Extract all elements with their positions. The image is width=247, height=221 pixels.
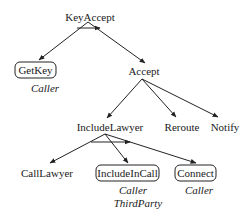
node-connect: Connect Caller	[175, 165, 216, 196]
role-label: Caller	[119, 184, 148, 196]
edge-accept-reroute	[142, 79, 176, 117]
node-notify: Notify	[211, 121, 240, 133]
task-tree-diagram: KeyAccept GetKey Caller Accept IncludeLa…	[0, 0, 247, 221]
node-label: Accept	[128, 65, 159, 77]
node-label: GetKey	[18, 64, 53, 76]
role-label: ThirdParty	[114, 197, 163, 209]
node-keyaccept: KeyAccept	[65, 11, 114, 23]
edges	[39, 22, 218, 163]
node-accept: Accept	[128, 65, 159, 77]
role-label: Caller	[185, 184, 214, 196]
node-getkey: GetKey Caller	[15, 62, 60, 94]
edge-includelawyer-includeincall	[105, 134, 128, 163]
edge-includelawyer-connect	[105, 134, 196, 163]
node-label: KeyAccept	[65, 11, 114, 23]
node-label: Connect	[177, 167, 214, 179]
edge-includelawyer-calllawyer	[50, 134, 105, 163]
edge-accept-notify	[142, 79, 218, 117]
node-label: CallLawyer	[21, 167, 73, 179]
node-label: Notify	[211, 121, 240, 133]
node-reroute: Reroute	[165, 121, 200, 133]
node-label: Reroute	[165, 121, 200, 133]
role-label: Caller	[31, 82, 60, 94]
node-label: IncludeInCall	[97, 167, 157, 179]
node-includeincall: IncludeInCall Caller ThirdParty	[96, 165, 162, 209]
node-calllawyer: CallLawyer	[21, 167, 73, 179]
node-label: IncludeLawyer	[77, 121, 144, 133]
node-includelawyer: IncludeLawyer	[77, 121, 144, 133]
edge-accept-includelawyer	[107, 79, 142, 118]
